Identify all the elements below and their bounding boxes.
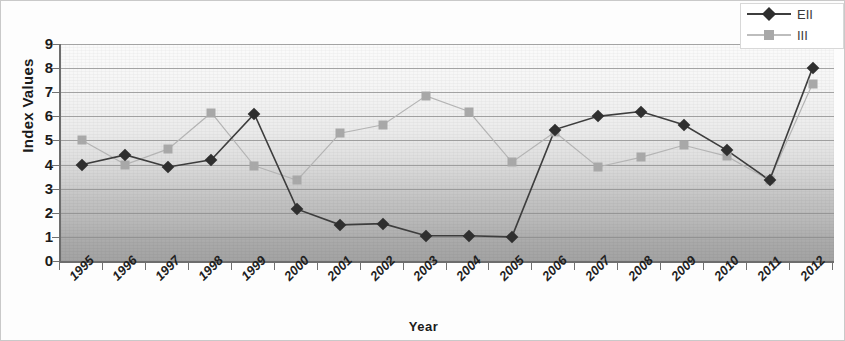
x-tick-mark — [789, 263, 790, 270]
x-axis-title: Year — [1, 319, 845, 334]
y-axis-tick-labels: 0123456789 — [23, 1, 53, 341]
x-tick-mark — [531, 263, 532, 270]
legend-label-series2: III — [797, 28, 808, 43]
y-tick-mark — [52, 68, 59, 69]
x-tick-mark — [617, 263, 618, 270]
y-tick-label: 2 — [31, 205, 53, 220]
legend-entry-series1[interactable]: EII — [747, 5, 813, 23]
x-tick-mark — [360, 263, 361, 270]
x-tick-mark — [274, 263, 275, 270]
chart-figure: Index Values 0123456789 1995199619971998… — [0, 0, 845, 341]
legend-label-series1: EII — [797, 7, 813, 22]
x-tick-mark — [660, 263, 661, 270]
y-tick-label: 0 — [31, 253, 53, 268]
x-tick-mark — [59, 263, 60, 270]
y-tick-mark — [52, 116, 59, 117]
legend-entry-series2[interactable]: III — [747, 26, 808, 44]
x-tick-mark — [703, 263, 704, 270]
x-tick-mark — [446, 263, 447, 270]
y-tick-label: 6 — [31, 108, 53, 123]
y-tick-label: 1 — [31, 229, 53, 244]
x-tick-mark — [574, 263, 575, 270]
y-tick-label: 9 — [31, 36, 53, 51]
chart-legend: EII III — [740, 3, 844, 49]
legend-marker-square-icon — [747, 28, 791, 42]
x-tick-mark — [488, 263, 489, 270]
legend-marker-diamond-icon — [747, 7, 791, 21]
x-tick-mark — [102, 263, 103, 270]
gridline — [61, 213, 834, 214]
plot-area — [59, 44, 834, 261]
y-tick-label: 3 — [31, 181, 53, 196]
series-lines — [61, 44, 361, 194]
y-tick-mark — [52, 237, 59, 238]
y-tick-mark — [52, 189, 59, 190]
x-tick-mark — [832, 263, 833, 270]
y-tick-mark — [52, 165, 59, 166]
y-tick-label: 7 — [31, 84, 53, 99]
y-tick-mark — [52, 92, 59, 93]
y-tick-mark — [52, 213, 59, 214]
x-tick-mark — [746, 263, 747, 270]
y-tick-label: 5 — [31, 132, 53, 147]
y-tick-label: 4 — [31, 157, 53, 172]
x-tick-mark — [145, 263, 146, 270]
x-tick-mark — [403, 263, 404, 270]
gridline — [61, 237, 834, 238]
x-tick-mark — [188, 263, 189, 270]
x-tick-mark — [231, 263, 232, 270]
y-tick-mark — [52, 140, 59, 141]
y-tick-mark — [52, 261, 59, 262]
x-tick-mark — [317, 263, 318, 270]
y-tick-mark — [52, 44, 59, 45]
y-tick-label: 8 — [31, 60, 53, 75]
